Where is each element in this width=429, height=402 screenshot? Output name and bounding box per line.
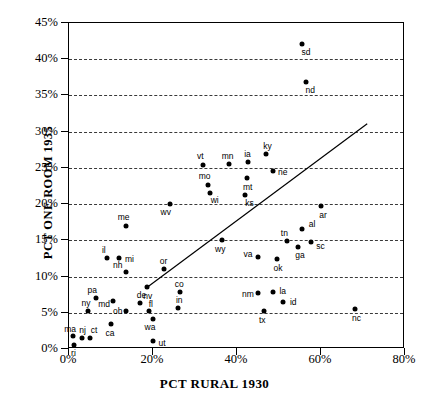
y-tick-label: 0% [0,341,58,356]
y-tick-label: 35% [0,87,58,102]
data-point-label: wa [145,322,156,332]
data-point-label: co [175,279,184,289]
y-tick-label: 15% [0,232,58,247]
data-point-label: ut [158,338,165,348]
data-point-label: va [244,249,253,259]
data-point-label: al [309,219,316,229]
data-point [167,202,172,207]
data-point-label: or [160,256,168,266]
data-point-label: md [98,299,110,309]
data-point-label: ga [295,250,304,260]
x-axis-title: PCT RURAL 1930 [0,376,429,392]
data-point [352,307,357,312]
data-point-label: tn [281,228,288,238]
data-point [300,42,305,47]
data-point-label: sc [316,241,325,251]
data-point [88,336,93,341]
y-tick-label: 20% [0,196,58,211]
data-point-label: tx [259,315,266,325]
data-point [72,342,77,347]
data-point-label: ct [91,325,98,335]
data-point-label: ri [71,348,76,358]
data-point [176,305,181,310]
data-point-label: id [290,297,297,307]
data-point-label: mo [199,171,211,181]
data-point [144,285,149,290]
data-point-label: ia [244,149,251,159]
data-point [220,238,225,243]
data-point [270,168,275,173]
data-point-label: vt [197,151,204,161]
data-point-label: ny [81,298,90,308]
data-point [243,192,248,197]
x-tick-label: 60% [309,352,332,367]
data-point [205,183,210,188]
data-point-label: mn [222,151,234,161]
data-point-label: ar [319,210,327,220]
y-tick-label: 30% [0,123,58,138]
data-point-label: fl [149,299,153,309]
data-point [201,162,206,167]
data-point [161,267,166,272]
trendline [69,23,405,349]
data-point [256,291,261,296]
data-point [123,270,128,275]
data-point [281,299,286,304]
data-point-label: nm [242,289,254,299]
data-point [79,336,84,341]
data-point-label: de [137,290,146,300]
data-point [109,322,114,327]
data-point [300,227,305,232]
x-tick-label: 80% [393,352,416,367]
data-point [123,223,128,228]
data-point-label: nj [79,325,86,335]
data-point [151,317,156,322]
data-point-label: in [176,295,183,305]
y-tick-label: 10% [0,268,58,283]
data-point [146,309,151,314]
data-point-label: il [102,245,106,255]
data-point [226,162,231,167]
data-point [295,244,300,249]
data-point [264,152,269,157]
data-point-label: ks [245,198,254,208]
data-point-label: nd [306,85,315,95]
data-point-label: sd [302,47,311,57]
data-point-label: wv [161,207,171,217]
y-tick-label: 25% [0,159,58,174]
data-point [71,333,76,338]
data-point [256,254,261,259]
data-point [270,290,275,295]
data-point-label: oh [113,306,122,316]
y-tick-label: 5% [0,304,58,319]
data-point-label: mi [125,254,134,264]
data-point [104,256,109,261]
data-point-label: me [118,212,130,222]
data-point [262,309,267,314]
data-point [111,299,116,304]
data-point [151,339,156,344]
data-point-label: ky [263,141,272,151]
x-tick-label: 40% [225,352,248,367]
data-point [319,203,324,208]
data-point-label: ne [278,167,287,177]
data-point-label: wy [215,244,225,254]
scatter-plot-figure: PCT ONE ROOM 1935 PCT RURAL 1930 0%5%10%… [0,0,429,402]
y-tick-label: 45% [0,15,58,30]
data-point-label: ca [106,328,115,338]
x-tick-label: 20% [141,352,164,367]
data-point [245,160,250,165]
data-point [123,309,128,314]
data-point [138,301,143,306]
data-point-label: mt [243,182,252,192]
data-point-label: wi [211,195,219,205]
data-point [304,79,309,84]
y-tick-label: 40% [0,51,58,66]
data-point-label: ok [273,263,282,273]
data-point-label: nc [352,313,361,323]
data-point-label: la [279,286,286,296]
data-point-label: ma [64,324,76,334]
data-point [85,308,90,313]
data-point [308,239,313,244]
data-point [244,176,249,181]
